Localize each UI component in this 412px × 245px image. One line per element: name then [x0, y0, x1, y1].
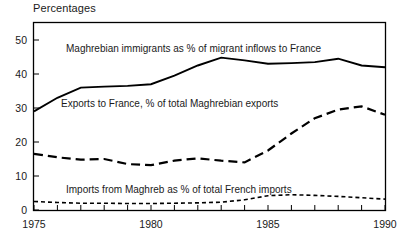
x-axis-labels: 1975198019851990: [22, 218, 397, 230]
y-axis-ticks: [34, 40, 39, 210]
annotation-imports: Imports from Maghreb as % of total Frenc…: [66, 184, 292, 195]
y-tick-label: 0: [21, 204, 27, 216]
series-line-exports: [34, 106, 385, 165]
y-tick-label: 50: [15, 34, 27, 46]
y-tick-label: 30: [15, 102, 27, 114]
x-axis-ticks: [34, 205, 385, 210]
y-tick-label: 10: [15, 170, 27, 182]
x-tick-label: 1980: [139, 218, 163, 230]
x-tick-label: 1985: [256, 218, 280, 230]
annotation-immigrants: Maghrebian immigrants as % of migrant in…: [66, 43, 322, 54]
chart-canvas: 01020304050 1975198019851990 Maghrebian …: [0, 0, 412, 245]
x-tick-label: 1975: [22, 218, 46, 230]
y-tick-label: 20: [15, 136, 27, 148]
x-tick-label: 1990: [373, 218, 397, 230]
chart-figure: Percentages 01020304050 1975198019851990…: [0, 0, 412, 245]
annotation-exports: Exports to France, % of total Maghrebian…: [61, 98, 278, 109]
series-line-imports: [34, 195, 385, 204]
y-tick-label: 40: [15, 68, 27, 80]
y-axis-labels: 01020304050: [15, 34, 27, 216]
